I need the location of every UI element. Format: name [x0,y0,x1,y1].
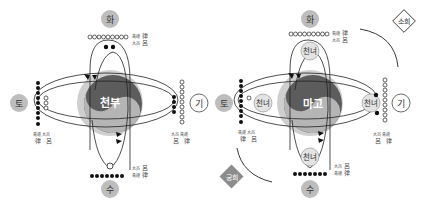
arrow-icon [116,139,122,144]
svg-text:呂: 呂 [46,137,52,145]
bead-column-left [36,81,40,126]
svg-text:화: 화 [306,15,314,25]
element-earth-right: 토 [215,94,233,112]
diagram-canvas: 천부 화 黃鐘 律 大呂 呂 토 黃鍾 大呂 律 呂 [0,0,422,208]
svg-text:律: 律 [386,137,392,145]
diamond-sohui: 소희 [393,10,416,33]
svg-text:기: 기 [397,99,405,109]
svg-text:大呂: 大呂 [334,163,342,169]
svg-text:수: 수 [306,185,314,195]
center-label-left: 천부 [100,96,120,110]
caption-top-left-lv: 黃鐘 [132,33,140,39]
svg-text:수: 수 [106,185,114,195]
svg-text:呂: 呂 [173,137,179,145]
svg-text:律: 律 [240,135,246,143]
svg-text:呂: 呂 [251,135,257,143]
svg-text:呂: 呂 [375,137,381,145]
arrow-icon [318,138,324,143]
bead-row-bottom-left [90,174,124,178]
element-water-left: 수 [101,180,119,198]
svg-text:천녀: 천녀 [256,98,270,108]
svg-text:大呂: 大呂 [332,37,340,43]
bead-column-right [180,80,184,124]
arc-sohui [360,29,398,67]
svg-text:토: 토 [15,99,23,109]
svg-text:천녀: 천녀 [364,98,378,108]
svg-text:律: 律 [184,137,190,145]
svg-text:律: 律 [344,169,350,177]
center-label-right: 마고 [303,97,323,111]
right-diagram: 마고 천녀 천녀 천녀 천녀 화 黃鐘 律 大呂 呂 [215,10,415,198]
svg-text:律: 律 [35,137,41,145]
svg-text:소희: 소희 [398,17,410,26]
svg-text:黃鐘: 黃鐘 [334,170,342,176]
element-water-right: 수 [301,180,319,198]
node-cheonnyeo-bottom: 천녀 [301,148,319,166]
element-fire-right: 화 [301,10,319,28]
element-earth-left: 토 [10,94,28,112]
svg-text:기: 기 [195,99,203,109]
svg-text:궁희: 궁희 [226,173,238,182]
element-qi-right: 기 [392,94,410,112]
svg-text:律: 律 [142,171,148,179]
bead-row-top-left [88,35,128,39]
svg-text:토: 토 [220,99,228,109]
svg-text:천녀: 천녀 [303,152,317,162]
svg-text:大呂: 大呂 [132,165,140,171]
node-cheonnyeo-left: 천녀 [254,94,272,112]
svg-text:呂: 呂 [142,39,148,47]
diamond-gunghui: 궁희 [219,164,243,188]
node-cheonnyeo-top: 천녀 [301,42,319,60]
left-diagram: 천부 화 黃鐘 律 大呂 呂 토 黃鍾 大呂 律 呂 [10,10,208,198]
svg-text:黃鐘: 黃鐘 [132,172,140,178]
svg-text:大呂: 大呂 [132,40,140,46]
svg-text:呂: 呂 [342,36,348,44]
svg-text:黃鐘: 黃鐘 [332,30,340,36]
svg-text:천녀: 천녀 [303,46,317,56]
element-qi-left: 기 [190,94,208,112]
svg-text:화: 화 [106,15,114,25]
element-fire-left: 화 [101,10,119,28]
